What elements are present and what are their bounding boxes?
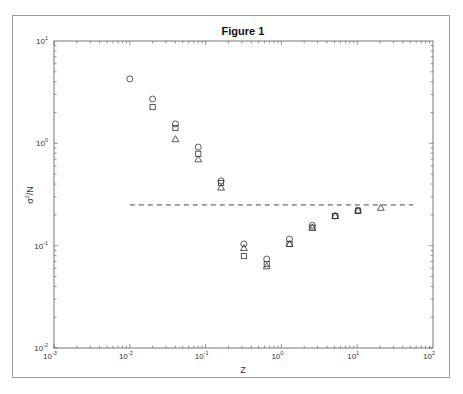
y-tick-labels: 10110010-110-2 xyxy=(34,35,48,353)
x-axis-label: Z xyxy=(240,365,246,375)
x-tick-labels: 10-310-210-1100101102 xyxy=(43,350,435,361)
x-tick-label: 102 xyxy=(423,350,435,361)
axes-box xyxy=(54,41,433,348)
y-tick-label: 101 xyxy=(36,35,48,46)
circle-marker xyxy=(127,76,133,82)
y-tick-label: 100 xyxy=(36,137,48,148)
data-markers xyxy=(127,76,384,269)
x-tick-label: 10-1 xyxy=(195,350,209,361)
x-tick-label: 100 xyxy=(271,350,283,361)
svg-text:σ2/N: σ2/N xyxy=(24,186,35,204)
circle-marker xyxy=(172,121,178,127)
chart-title: Figure 1 xyxy=(222,25,265,37)
y-axis-label-rest: /N xyxy=(25,186,35,195)
x-tick-label: 10-3 xyxy=(43,350,57,361)
triangle-marker xyxy=(172,136,179,142)
square-marker xyxy=(150,104,155,109)
axis-ticks xyxy=(54,41,433,348)
circle-marker xyxy=(218,178,224,184)
y-tick-label: 10-1 xyxy=(34,240,48,251)
circle-marker xyxy=(195,144,201,150)
chart-canvas: Figure 1 10-310-210-1100101102 10110010-… xyxy=(0,0,463,394)
x-tick-label: 10-2 xyxy=(119,350,133,361)
circle-marker xyxy=(150,96,156,102)
square-marker xyxy=(241,254,246,259)
y-axis-label: σ2/N xyxy=(24,186,35,204)
x-tick-label: 101 xyxy=(347,350,359,361)
